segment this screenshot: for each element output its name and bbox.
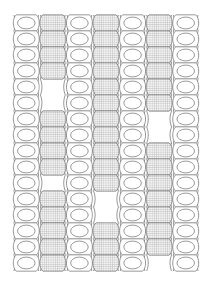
cell-hatched	[93, 79, 119, 95]
cell-hatched	[93, 255, 119, 271]
cell-hatched	[146, 63, 172, 79]
column-gap	[93, 191, 119, 223]
cell-hatched	[40, 143, 66, 159]
column-gap	[146, 111, 172, 143]
cell-hatched	[146, 191, 172, 207]
cell-hatched	[93, 239, 119, 255]
columns-group	[13, 15, 198, 271]
diagram-column-4-hatched	[93, 15, 119, 271]
column-gap	[146, 255, 172, 271]
cell-hatched	[146, 79, 172, 95]
cell-hatched	[93, 63, 119, 79]
cell-hatched	[40, 239, 66, 255]
cell-hatched	[146, 239, 172, 255]
cell-hatched	[146, 207, 172, 223]
cell-hatched	[40, 159, 66, 175]
cell-hatched	[40, 111, 66, 127]
cell-hatched	[93, 223, 119, 239]
cell-hatched	[146, 47, 172, 63]
cell-hatched	[93, 143, 119, 159]
cell-hatched	[40, 127, 66, 143]
cell-hatched	[93, 15, 119, 31]
cell-hatched	[146, 15, 172, 31]
cell-hatched	[40, 207, 66, 223]
cell-hatched	[146, 95, 172, 111]
column-gap	[40, 175, 66, 191]
diagram-column-6-hatched	[146, 15, 172, 271]
cell-hatched	[40, 223, 66, 239]
cell-hatched	[40, 47, 66, 63]
cell-hatched	[40, 191, 66, 207]
cell-hatched	[93, 111, 119, 127]
column-gap	[40, 79, 66, 111]
cell-hatched	[146, 175, 172, 191]
cell-hatched	[146, 223, 172, 239]
cell-hatched	[93, 127, 119, 143]
structure-diagram	[0, 0, 211, 284]
cell-hatched	[93, 175, 119, 191]
cell-hatched	[40, 15, 66, 31]
cell-hatched	[40, 63, 66, 79]
diagram-column-7-empty	[173, 15, 199, 271]
cell-hatched	[93, 47, 119, 63]
cell-hatched	[93, 31, 119, 47]
diagram-column-5-empty	[120, 15, 146, 271]
cell-hatched	[146, 143, 172, 159]
cell-hatched	[40, 31, 66, 47]
diagram-column-2-hatched	[40, 15, 66, 271]
diagram-column-3-empty	[66, 15, 92, 271]
cell-hatched	[93, 159, 119, 175]
cell-hatched	[146, 159, 172, 175]
figure-root: Cross-sectional structure diagram	[0, 0, 211, 284]
cell-hatched	[146, 31, 172, 47]
cell-hatched	[40, 255, 66, 271]
diagram-column-1-empty	[13, 15, 39, 271]
cell-hatched	[93, 95, 119, 111]
